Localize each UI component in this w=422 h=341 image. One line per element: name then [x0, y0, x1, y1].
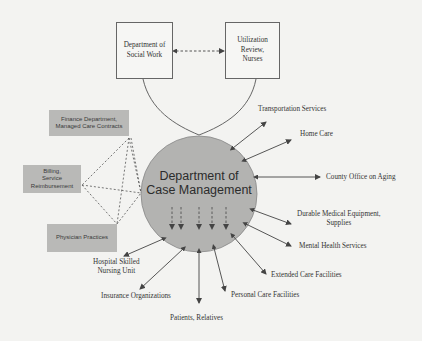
label-insurance: Insurance Organizations	[101, 292, 171, 301]
label-extended-care: Extended Care Facilities	[271, 271, 342, 280]
social-work-box: Department of Social Work	[116, 22, 173, 79]
finance-box: Finance Department, Managed Care Contrac…	[49, 110, 129, 136]
label-personal-care: Personal Care Facilities	[231, 291, 299, 300]
case-management-diagram: Department of Social Work Utilization Re…	[0, 0, 422, 341]
connector-utilization	[199, 79, 256, 135]
label-home-care: Home Care	[300, 130, 333, 139]
label-mental-health: Mental Health Services	[299, 242, 366, 251]
center-label: Department of Case Management	[134, 169, 264, 197]
label-patients: Patients, Relatives	[170, 314, 223, 323]
label-transportation: Transportation Services	[258, 105, 326, 114]
dashed-network	[82, 138, 141, 224]
connector-social-work	[143, 79, 199, 135]
label-county-office: County Office on Aging	[326, 173, 396, 182]
label-hospital-snu: Hospital Skilled Nursing Unit	[93, 258, 140, 276]
label-dme: Durable Medical Equipment, Supplies	[297, 210, 381, 228]
utilization-review-box: Utilization Review, Nurses	[225, 22, 280, 79]
physician-practices-box: Physician Practices	[47, 224, 117, 252]
billing-box: Billing, Service Reimbursement	[23, 165, 81, 193]
